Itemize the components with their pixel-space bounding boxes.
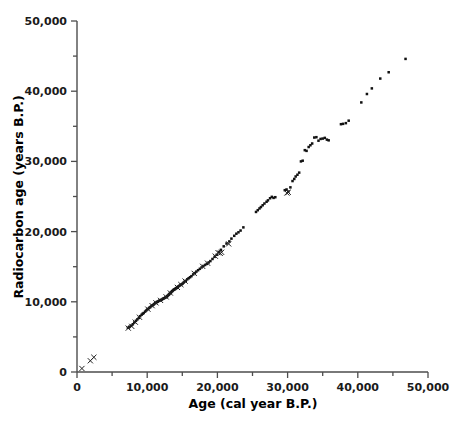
- x-tick-label: 10,000: [126, 381, 169, 394]
- data-point-dot: [305, 150, 308, 153]
- data-point-dot: [360, 101, 363, 104]
- y-tick-label: 0: [59, 366, 67, 379]
- x-tick-label: 20,000: [196, 381, 239, 394]
- data-point-dot: [298, 171, 301, 174]
- data-point-dot: [379, 77, 382, 80]
- data-point-dot: [311, 142, 314, 145]
- data-point-dot: [293, 178, 296, 181]
- data-point-dot: [342, 123, 345, 126]
- scatter-chart: 010,00020,00030,00040,00050,000 010,0002…: [0, 0, 455, 423]
- y-tick-label: 40,000: [25, 85, 68, 98]
- y-tick-label: 30,000: [25, 155, 68, 168]
- data-point-dot: [366, 93, 369, 96]
- y-tick-label: 10,000: [25, 296, 68, 309]
- data-point-dot: [301, 159, 304, 162]
- x-axis-title: Age (cal year B.P.): [189, 396, 318, 411]
- data-point-dot: [239, 229, 242, 232]
- data-point-dot: [230, 237, 233, 240]
- y-tick-label: 20,000: [25, 226, 68, 239]
- chart-background: [0, 0, 455, 423]
- data-point-dot: [222, 245, 225, 248]
- data-point-dot: [327, 139, 330, 142]
- y-axis-title: Radiocarbon age (years B.P.): [11, 95, 26, 298]
- x-tick-label: 50,000: [407, 381, 450, 394]
- data-point-dot: [315, 136, 318, 139]
- x-tick-label: 30,000: [266, 381, 309, 394]
- data-point-dot: [242, 226, 245, 229]
- x-tick-label: 0: [73, 381, 81, 394]
- data-point-dot: [274, 196, 277, 199]
- data-point-dot: [371, 87, 374, 90]
- y-tick-label: 50,000: [25, 15, 68, 28]
- data-point-dot: [404, 58, 407, 61]
- data-point-dot: [387, 71, 390, 74]
- data-point-dot: [347, 119, 350, 122]
- data-point-dot: [289, 186, 292, 189]
- chart-svg: 010,00020,00030,00040,00050,000 010,0002…: [0, 0, 455, 423]
- data-point-dot: [345, 122, 348, 125]
- x-tick-label: 40,000: [337, 381, 380, 394]
